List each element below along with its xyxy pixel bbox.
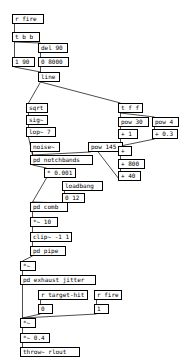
pd-object-pow4[interactable]: pow 4 xyxy=(152,117,179,127)
pd-node-label: pd notchbands xyxy=(33,156,83,164)
pd-node-label: *~ 10 xyxy=(33,218,54,226)
pd-object-noise[interactable]: noise~ xyxy=(30,142,60,152)
pd-node-label: + 0.3 xyxy=(155,130,176,138)
pd-object-plus03[interactable]: + 0.3 xyxy=(152,129,178,139)
pd-node-label: loadbang xyxy=(65,182,97,190)
pd-object-plus1[interactable]: + 1 xyxy=(118,129,138,139)
pd-node-label: *~ xyxy=(23,319,33,327)
pd-object-mul04[interactable]: *~ 0.4 xyxy=(20,333,50,343)
patch-wire xyxy=(33,178,47,202)
patch-wire xyxy=(41,82,121,103)
pd-object-mul0001[interactable]: * 0.001 xyxy=(44,168,76,178)
patch-wire xyxy=(15,67,41,72)
pd-object-mul_a[interactable]: *~ xyxy=(20,261,36,271)
pd-object-mul_b[interactable]: *~ xyxy=(20,318,36,328)
pd-object-r_fire[interactable]: r fire xyxy=(12,14,44,24)
pd-node-label: r fire xyxy=(97,291,122,299)
pd-object-lop[interactable]: lop~ 7 xyxy=(26,127,56,137)
pd-node-label: *~ 0.4 xyxy=(23,334,48,342)
pd-object-pow30[interactable]: pow 30 xyxy=(118,117,149,127)
pd-node-label: pd pipe xyxy=(33,247,61,255)
pd-node-label: + 1 xyxy=(121,130,135,138)
pd-object-sig[interactable]: sig~ xyxy=(26,115,48,125)
pd-node-label: lop~ 7 xyxy=(29,128,54,136)
pd-node-label: line xyxy=(41,73,58,81)
patch-wire xyxy=(121,139,155,146)
pd-object-t_f_f[interactable]: t f f xyxy=(118,103,143,113)
pd-message-msg_1_90[interactable]: 1 90 xyxy=(12,57,35,67)
pd-object-mul10[interactable]: *~ 10 xyxy=(30,217,58,227)
pd-patch-canvas[interactable]: r firet b bdel 901 900 8000linesqrtsig~l… xyxy=(0,0,182,364)
pd-node-label: 0 12 xyxy=(65,194,82,202)
pd-node-label: 1 90 xyxy=(15,58,32,66)
pd-node-label: pd exhaust jitter xyxy=(23,276,87,284)
pd-object-t_b_b[interactable]: t b b xyxy=(12,32,40,42)
pd-node-label: pd comb xyxy=(33,203,61,211)
pd-node-label: + xyxy=(121,147,128,155)
pd-node-label: 0 8000 xyxy=(41,58,66,66)
pd-node-label: r target-hit xyxy=(41,291,87,299)
pd-object-pd_exhaust[interactable]: pd exhaust jitter xyxy=(20,275,96,285)
pd-node-label: + 800 xyxy=(121,160,142,168)
pd-object-r_fire2[interactable]: r fire xyxy=(94,290,122,300)
pd-object-plus_empty[interactable]: + xyxy=(118,146,132,156)
pd-node-label: t b b xyxy=(15,33,36,41)
patch-wire xyxy=(15,42,41,43)
pd-node-label: sig~ xyxy=(29,116,46,124)
pd-object-loadbang[interactable]: loadbang xyxy=(62,181,103,191)
pd-node-label: r fire xyxy=(15,15,40,23)
pd-node-label: pow 4 xyxy=(155,118,176,126)
pd-node-label: throw~ rlout xyxy=(23,348,69,356)
pd-object-sqrt[interactable]: sqrt xyxy=(26,103,48,113)
pd-object-pd_comb[interactable]: pd comb xyxy=(30,202,68,212)
pd-object-r_target_hit[interactable]: r target-hit xyxy=(38,290,88,300)
pd-object-line[interactable]: line xyxy=(38,72,60,82)
pd-node-label: *~ xyxy=(23,262,33,270)
patch-wire xyxy=(29,82,41,103)
pd-node-label: clip~ -1 1 xyxy=(33,233,72,241)
pd-object-clip[interactable]: clip~ -1 1 xyxy=(30,232,72,242)
pd-node-label: pow 145 xyxy=(91,143,119,151)
pd-node-label: 1 xyxy=(97,305,104,313)
pd-node-label: noise~ xyxy=(33,143,58,151)
pd-message-msg_1[interactable]: 1 xyxy=(94,304,109,314)
pd-node-label: pow 30 xyxy=(121,118,146,126)
pd-message-msg_0[interactable]: 0 xyxy=(38,304,53,314)
pd-message-msg_0_8000[interactable]: 0 8000 xyxy=(38,57,69,67)
pd-node-label: 0 xyxy=(41,305,48,313)
pd-node-label: + 40 xyxy=(121,172,138,180)
pd-object-pd_pipe[interactable]: pd pipe xyxy=(30,246,66,256)
pd-object-plus800[interactable]: + 800 xyxy=(118,159,145,169)
pd-object-del90[interactable]: del 90 xyxy=(38,43,68,53)
pd-node-label: del 90 xyxy=(41,44,66,52)
pd-object-pd_notchbands[interactable]: pd notchbands xyxy=(30,155,93,165)
pd-object-plus40[interactable]: + 40 xyxy=(118,171,141,181)
pd-node-label: * 0.001 xyxy=(47,169,75,177)
pd-node-label: t f f xyxy=(121,104,142,112)
pd-object-throw[interactable]: throw~ rlout xyxy=(20,347,80,357)
pd-node-label: sqrt xyxy=(29,104,46,112)
